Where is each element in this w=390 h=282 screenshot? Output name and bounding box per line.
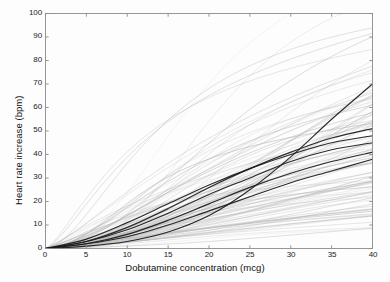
x-tick-label: 0	[33, 251, 57, 259]
x-tick-label: 20	[197, 251, 221, 259]
x-tick-label: 35	[320, 251, 344, 259]
plot-canvas	[0, 0, 390, 282]
y-tick-label: 100	[20, 9, 42, 17]
x-tick-label: 25	[238, 251, 262, 259]
dose-response-figure: 100 90 80 70 60 50 40 30 20 10 0 0 5 10 …	[0, 0, 390, 282]
x-tick-label: 30	[279, 251, 303, 259]
y-tick-label: 90	[20, 32, 42, 40]
x-tick-label: 5	[74, 251, 98, 259]
x-tick-label: 15	[156, 251, 180, 259]
y-axis-label: Heart rate increase (bpm)	[13, 96, 24, 205]
y-tick-label: 10	[20, 220, 42, 228]
y-tick-label: 70	[20, 79, 42, 87]
x-axis-label: Dobutamine concentration (mcg)	[0, 262, 390, 273]
population-curve-group	[46, 14, 373, 249]
x-tick-label: 10	[115, 251, 139, 259]
x-tick-label: 40	[361, 251, 385, 259]
y-tick-label: 80	[20, 56, 42, 64]
